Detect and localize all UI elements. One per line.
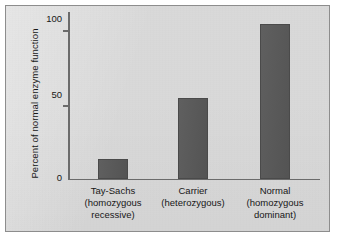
bar-carrier (178, 98, 208, 179)
x-axis-line (68, 179, 320, 181)
y-tick-label-0: 0 (22, 172, 62, 183)
y-tick-mark-100 (63, 30, 69, 32)
x-category-line: (homozygous (223, 197, 327, 209)
bar-tay-sachs (98, 159, 128, 179)
y-tick-label-50: 50 (22, 89, 62, 100)
x-category-line: recessive) (61, 209, 165, 221)
y-axis-title: Percent of normal enzyme function (29, 19, 40, 189)
bar-chart-figure: Percent of normal enzyme function 100 50… (0, 0, 340, 242)
x-category-label-normal: Normal (homozygous dominant) (223, 185, 327, 222)
y-axis-line (68, 12, 70, 180)
y-tick-mark-50 (63, 105, 69, 107)
x-category-line: dominant) (223, 209, 327, 221)
y-tick-label-100: 100 (22, 13, 62, 24)
plot-area (68, 12, 320, 180)
bar-normal (260, 24, 290, 179)
x-category-line: Normal (223, 185, 327, 197)
